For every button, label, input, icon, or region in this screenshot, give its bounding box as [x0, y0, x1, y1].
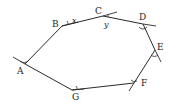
angle-label-x: x — [72, 16, 77, 25]
polygon-sides — [25, 16, 155, 90]
side-AB — [25, 26, 62, 64]
vertex-label-A: A — [16, 66, 24, 76]
vertex-label-C: C — [95, 6, 102, 16]
angle-label-y: y — [103, 20, 109, 29]
vertex-label-B: B — [52, 19, 59, 29]
vertex-label-D: D — [139, 12, 146, 22]
vertex-label-G: G — [72, 92, 79, 102]
angle-arc-D — [139, 27, 147, 29]
angle-arcs — [20, 15, 158, 90]
vertex-label-F: F — [141, 78, 147, 88]
heptagon-diagram: A B C D E F G x y — [0, 0, 170, 103]
angle-arc-A — [20, 60, 29, 63]
extension-at-F — [129, 83, 134, 91]
side-GA — [25, 64, 72, 90]
extension-lines — [13, 12, 161, 91]
extension-at-C — [103, 12, 117, 16]
side-DE — [143, 24, 155, 50]
extension-at-A — [13, 57, 25, 64]
extension-at-D — [143, 24, 156, 26]
extension-at-G — [72, 89, 84, 90]
side-CD — [103, 16, 143, 24]
vertex-label-E: E — [157, 42, 164, 52]
